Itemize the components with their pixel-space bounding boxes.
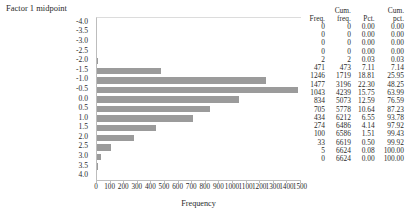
y-tick-label: -4.0 — [76, 18, 88, 26]
x-tick-label: 0 — [94, 183, 98, 191]
bar — [97, 154, 101, 160]
bar — [97, 96, 239, 102]
x-tick-label: 900 — [213, 183, 224, 191]
bar — [97, 144, 111, 150]
y-tick-label: 1.0 — [79, 114, 89, 122]
y-tick-label: -0.5 — [76, 85, 88, 93]
x-tick-label: 700 — [186, 183, 197, 191]
bar — [97, 115, 193, 121]
x-axis-tick-labels: 0100200300400500600700800900100011001200… — [96, 181, 301, 191]
x-tick-label: 1300 — [266, 183, 280, 191]
x-tick-label: 1500 — [293, 183, 307, 191]
y-tick-label: 0.0 — [79, 95, 89, 103]
page-title: Factor 1 midpoint — [6, 3, 67, 13]
cell-cumfreq: 6624 — [327, 155, 353, 163]
y-tick-label: -3.0 — [76, 37, 88, 45]
y-axis-tick-labels: -4.0-3.5-3.0-2.5-2.0-1.5-1.0-0.50.00.51.… — [30, 17, 92, 180]
y-tick-label: 0.5 — [79, 104, 89, 112]
y-tick-label: -3.5 — [76, 27, 88, 35]
y-tick-label: -2.0 — [76, 56, 88, 64]
bar-series — [97, 17, 301, 180]
histogram-figure: Factor 1 midpoint -4.0-3.5-3.0-2.5-2.0-1… — [0, 0, 408, 220]
y-tick-label: -1.5 — [76, 66, 88, 74]
x-tick-label: 400 — [145, 183, 156, 191]
x-tick-label: 500 — [159, 183, 170, 191]
x-tick-label: 1000 — [225, 183, 239, 191]
bar — [97, 135, 134, 141]
table-body: 000.000.00000.000.00000.000.00000.000.00… — [302, 23, 406, 164]
bar — [97, 125, 156, 131]
frequency-table: Cum. Cum. Freq. freq. Pct. pct. 000.000.… — [302, 6, 406, 163]
table-row: 066240.00100.00 — [302, 155, 406, 163]
x-tick-label: 1200 — [252, 183, 266, 191]
y-tick-label: -2.5 — [76, 47, 88, 55]
cell-pct: 0.00 — [353, 155, 377, 163]
x-axis-title: Frequency — [96, 199, 301, 208]
y-tick-label: 1.5 — [79, 123, 89, 131]
bar — [97, 77, 266, 83]
bar — [97, 68, 161, 74]
y-tick-label: 2.5 — [79, 142, 89, 150]
x-tick-label: 1100 — [239, 183, 253, 191]
x-tick-label: 200 — [118, 183, 129, 191]
x-tick-label: 1400 — [279, 183, 293, 191]
y-tick-label: 3.5 — [79, 162, 89, 170]
y-tick-label: 2.0 — [79, 133, 89, 141]
y-tick-label: 4.0 — [79, 171, 89, 179]
x-tick-label: 100 — [104, 183, 115, 191]
bar — [97, 106, 210, 112]
bar — [97, 163, 98, 169]
cell-freq: 0 — [302, 155, 327, 163]
y-tick-label: 3.0 — [79, 152, 89, 160]
cell-cumpct: 100.00 — [377, 155, 406, 163]
x-tick-label: 800 — [199, 183, 210, 191]
x-tick-label: 600 — [172, 183, 183, 191]
x-tick-label: 300 — [131, 183, 142, 191]
y-tick-label: -1.0 — [76, 75, 88, 83]
bar — [97, 87, 298, 93]
bar — [97, 58, 98, 64]
